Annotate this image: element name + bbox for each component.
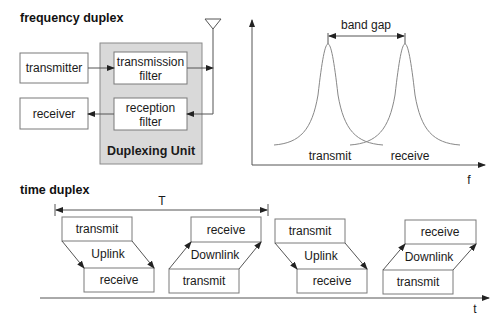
antenna-icon (205, 19, 221, 29)
receiver-label: receiver (33, 107, 76, 121)
slot-bottom-label: transmit (183, 274, 226, 288)
frequency-axis-label: f (467, 173, 471, 187)
slot-arrow-right (132, 241, 154, 268)
time-duplex-title: time duplex (20, 183, 90, 197)
slot-bottom-label: receive (313, 274, 352, 288)
slot-arrow-right (345, 243, 367, 269)
transmission-filter-label-line1: transmission (117, 55, 184, 69)
slot-direction-label: Uplink (304, 249, 338, 263)
reception-filter-label-line1: reception (126, 101, 175, 115)
transmit-band-curve (274, 44, 383, 145)
slot-top-label: transmit (289, 224, 332, 238)
time-slot-uplink-2: transmit receive Uplink (275, 219, 367, 293)
duplexing-unit-label: Duplexing Unit (107, 144, 196, 158)
slot-arrow-left (62, 241, 84, 268)
slot-direction-label: Downlink (405, 250, 455, 264)
receive-band-label: receive (391, 149, 430, 163)
slot-bottom-label: transmit (397, 275, 440, 289)
transmission-filter-label-line2: filter (139, 69, 162, 83)
receive-band-curve (350, 44, 460, 145)
slot-arrow-left (383, 244, 405, 270)
slot-top-label: receive (207, 223, 246, 237)
transmitter-label: transmitter (26, 61, 83, 75)
slot-top-label: transmit (76, 222, 119, 236)
duplex-diagram: frequency duplex Duplexing Unit transmit… (0, 0, 502, 325)
slot-direction-label: Uplink (91, 247, 125, 261)
transmit-band-label: transmit (309, 149, 352, 163)
period-label: T (158, 194, 166, 208)
slot-top-label: receive (421, 225, 460, 239)
time-axis-label: t (473, 302, 477, 316)
time-slot-uplink-1: transmit receive Uplink (62, 217, 154, 292)
slot-arrow-right (239, 242, 261, 269)
slot-bottom-label: receive (100, 273, 139, 287)
slot-arrow-left (275, 243, 297, 269)
frequency-duplex-title: frequency duplex (20, 11, 124, 25)
time-slot-downlink-1: receive transmit Downlink (169, 217, 261, 293)
band-gap-label: band gap (341, 18, 391, 32)
slot-arrow-left (169, 242, 191, 269)
slot-arrow-right (453, 244, 476, 270)
slot-direction-label: Downlink (191, 248, 241, 262)
time-slot-downlink-2: receive transmit Downlink (383, 220, 476, 294)
reception-filter-label-line2: filter (139, 115, 162, 129)
